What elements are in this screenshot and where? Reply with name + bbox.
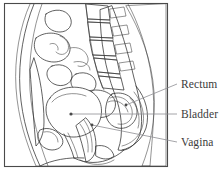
marker-dot-vagina bbox=[91, 124, 94, 127]
label-rectum: Rectum bbox=[181, 78, 217, 90]
anatomical-figure: Rectum Bladder Vagina bbox=[0, 0, 223, 176]
label-vagina: Vagina bbox=[181, 136, 214, 149]
figure-canvas: Rectum Bladder Vagina bbox=[0, 0, 223, 176]
label-bladder: Bladder bbox=[181, 108, 218, 120]
marker-dot-bladder bbox=[69, 112, 72, 115]
marker-dot-rectum bbox=[125, 104, 128, 107]
